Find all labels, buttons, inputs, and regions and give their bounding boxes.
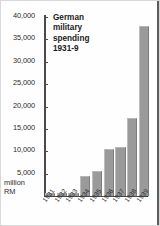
y-axis-tick-label: 15,000 xyxy=(13,123,35,132)
y-axis-tick-label: 40,000 xyxy=(13,11,35,20)
x-axis-label-slot: 1938 xyxy=(127,198,137,226)
y-axis-tick-label: 10,000 xyxy=(13,145,35,154)
x-axis-label-slot: 1939 xyxy=(139,198,149,226)
x-axis-label-slot: 1937 xyxy=(115,198,125,226)
x-axis-label-slot: 1934 xyxy=(80,198,90,226)
bar-slot xyxy=(127,17,137,196)
x-axis-label-slot: 1933 xyxy=(68,198,78,226)
x-axis-label-slot: 1931 xyxy=(45,198,55,226)
x-axis-label-slot: 1936 xyxy=(104,198,114,226)
chart-title-line-4: 1931-9 xyxy=(53,44,115,54)
bar-slot xyxy=(115,17,125,196)
y-axis-tick-label: 25,000 xyxy=(13,78,35,87)
chart-title-line-1: German xyxy=(53,13,115,23)
bar-1939 xyxy=(139,26,149,196)
chart-title-line-3: spending xyxy=(53,34,115,44)
x-axis-label-slot: 1932 xyxy=(57,198,67,226)
y-axis-unit-label: million RM xyxy=(4,179,44,196)
y-axis-tick-label: 20,000 xyxy=(13,101,35,110)
y-axis-tick-label: 5,000 xyxy=(17,168,35,177)
figure-right-edge xyxy=(157,1,159,226)
chart-title-line-2: military xyxy=(53,23,115,33)
x-axis-labels: 193119321933193419351936193719381939 xyxy=(45,198,149,226)
x-axis-label-slot: 1935 xyxy=(92,198,102,226)
bar-1938 xyxy=(127,118,137,196)
bar-slot xyxy=(139,17,149,196)
y-axis-unit-line-2: RM xyxy=(4,188,44,197)
y-axis-tick-label: 35,000 xyxy=(13,33,35,42)
chart-title: German military spending 1931-9 xyxy=(53,13,115,55)
chart-figure: 5,00010,00015,00020,00025,00030,00035,00… xyxy=(0,0,160,226)
y-axis-tick-label: 30,000 xyxy=(13,56,35,65)
